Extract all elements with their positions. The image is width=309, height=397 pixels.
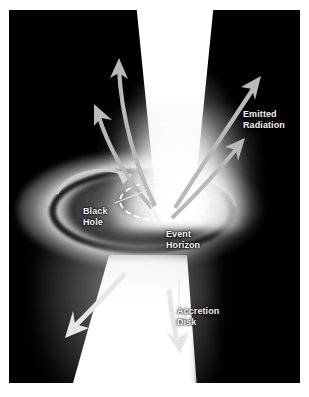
black-hole-figure: .ar{stroke:#b9b9b9;stroke-width:4.2;fill… [0, 0, 309, 397]
label-black-hole: Black Hole [83, 206, 108, 227]
diagram-panel: .ar{stroke:#b9b9b9;stroke-width:4.2;fill… [9, 10, 300, 383]
label-event-horizon: Event Horizon [166, 229, 200, 250]
arrow-lower-left [65, 273, 125, 338]
arrow-upper-right-outer [175, 76, 261, 208]
label-emitted-radiation: Emitted Radiation [243, 109, 285, 130]
arrow-upper-right-inner [172, 138, 245, 218]
arrow-upper-left-inner [94, 104, 152, 208]
label-accretion-disk: Accretion Disk [177, 306, 219, 327]
leader-event-horizon [150, 204, 161, 225]
radiation-arrows-group: .ar{stroke:#b9b9b9;stroke-width:4.2;fill… [9, 10, 300, 383]
